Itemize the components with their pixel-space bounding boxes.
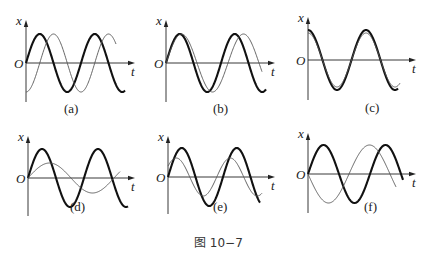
x-axis-label: t: [271, 64, 275, 79]
y-axis-arrow-icon: [24, 20, 28, 27]
y-axis-label: x: [155, 13, 162, 28]
panel-e: xtO(e): [156, 129, 275, 214]
panel-caption: (a): [64, 101, 78, 116]
figure-caption: 图 10−7: [194, 236, 243, 250]
origin-label: O: [296, 167, 306, 182]
panel-caption: (e): [213, 199, 227, 214]
y-axis-label: x: [157, 129, 164, 144]
panel-c: xtO(c): [296, 10, 416, 115]
y-axis-arrow-icon: [306, 17, 310, 24]
origin-label: O: [154, 56, 164, 71]
y-axis-label: x: [15, 13, 22, 28]
y-axis-label: x: [297, 10, 304, 25]
x-axis-label: t: [412, 175, 416, 190]
y-axis-arrow-icon: [306, 133, 310, 140]
panel-b: xtO(b): [154, 13, 275, 116]
figure-canvas: xtO(a)xtO(b)xtO(c)xtO(d)xtO(e)xtO(f) 图 1…: [0, 0, 428, 261]
x-axis-label: t: [412, 61, 416, 76]
panels-group: xtO(a)xtO(b)xtO(c)xtO(d)xtO(e)xtO(f): [14, 10, 416, 216]
y-axis-arrow-icon: [166, 136, 170, 143]
origin-label: O: [296, 53, 306, 68]
origin-label: O: [14, 56, 24, 71]
x-axis-label: t: [131, 179, 135, 194]
panel-caption: (b): [213, 101, 228, 116]
origin-label: O: [156, 170, 166, 185]
panel-a: xtO(a): [14, 13, 135, 116]
panel-caption: (d): [70, 199, 85, 214]
x-axis-label: t: [271, 178, 275, 193]
panel-f: xtO(f): [296, 126, 416, 214]
y-axis-arrow-icon: [164, 20, 168, 27]
y-axis-label: x: [297, 126, 304, 141]
y-axis-arrow-icon: [26, 136, 30, 143]
y-axis-label: x: [17, 129, 24, 144]
origin-label: O: [16, 171, 26, 186]
x-axis-label: t: [131, 64, 135, 79]
panel-d: xtO(d): [16, 129, 135, 216]
panel-caption: (f): [364, 199, 377, 214]
panel-caption: (c): [365, 100, 379, 115]
